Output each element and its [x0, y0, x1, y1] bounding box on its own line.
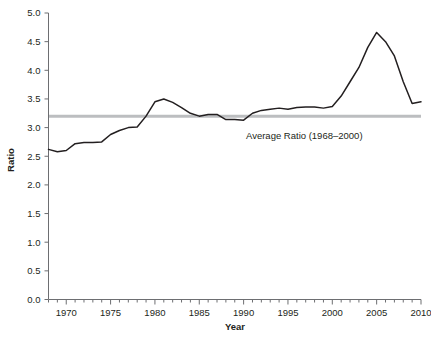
- y-tick-label: 2.0: [27, 179, 40, 190]
- y-tick-label: 3.0: [27, 122, 40, 133]
- y-tick-label: 0.5: [27, 265, 40, 276]
- x-tick-label: 1970: [56, 307, 77, 318]
- x-tick-label: 2005: [366, 307, 387, 318]
- x-axis-title: Year: [225, 321, 245, 332]
- x-tick-label: 2000: [322, 307, 343, 318]
- x-axis-tick-labels: 197019751980198519901995200020052010: [56, 307, 431, 318]
- y-tick-label: 5.0: [27, 7, 40, 18]
- y-tick-label: 4.0: [27, 65, 40, 76]
- y-tick-label: 1.5: [27, 208, 40, 219]
- y-tick-label: 0.0: [27, 294, 40, 305]
- y-tick-label: 4.5: [27, 36, 40, 47]
- x-tick-label: 2010: [410, 307, 431, 318]
- y-axis-title: Ratio: [5, 148, 16, 172]
- x-tick-label: 1975: [100, 307, 121, 318]
- ratio-line-chart: 0.00.51.01.52.02.53.03.54.04.55.0 197019…: [0, 0, 431, 342]
- average-ratio-annotation: Average Ratio (1968–2000): [246, 130, 363, 141]
- x-tick-label: 1995: [277, 307, 298, 318]
- x-tick-label: 1990: [233, 307, 254, 318]
- y-tick-label: 3.5: [27, 93, 40, 104]
- chart-figure: 0.00.51.01.52.02.53.03.54.04.55.0 197019…: [0, 0, 431, 342]
- x-tick-label: 1985: [189, 307, 210, 318]
- y-tick-label: 2.5: [27, 151, 40, 162]
- x-tick-label: 1980: [144, 307, 165, 318]
- y-tick-label: 1.0: [27, 237, 40, 248]
